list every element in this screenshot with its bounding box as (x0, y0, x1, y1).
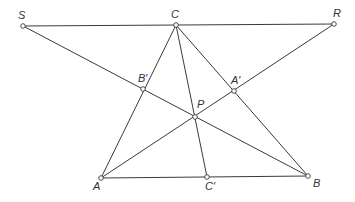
geometry-diagram: SCRB′A′PAC′B (0, 0, 355, 202)
point-s (21, 24, 26, 29)
points (21, 22, 337, 181)
segment-a-c (101, 25, 176, 178)
label-a: A (92, 180, 100, 192)
label-ap: A′ (230, 74, 241, 86)
labels: SCRB′A′PAC′B (18, 7, 341, 192)
point-cp (205, 175, 210, 180)
point-p (193, 115, 198, 120)
label-p: P (197, 98, 205, 110)
segment-r-a (101, 24, 334, 178)
point-r (332, 22, 337, 27)
segment-c-b (176, 25, 308, 176)
label-cp: C′ (205, 180, 216, 192)
point-bp (141, 87, 146, 92)
point-c (174, 23, 179, 28)
point-b (306, 174, 311, 179)
label-s: S (18, 9, 26, 21)
point-ap (232, 89, 237, 94)
segments (23, 24, 334, 178)
segment-s-b (23, 26, 308, 176)
label-r: R (333, 7, 341, 19)
label-bp: B′ (138, 72, 148, 84)
label-b: B (313, 177, 320, 189)
label-c: C (171, 8, 179, 20)
